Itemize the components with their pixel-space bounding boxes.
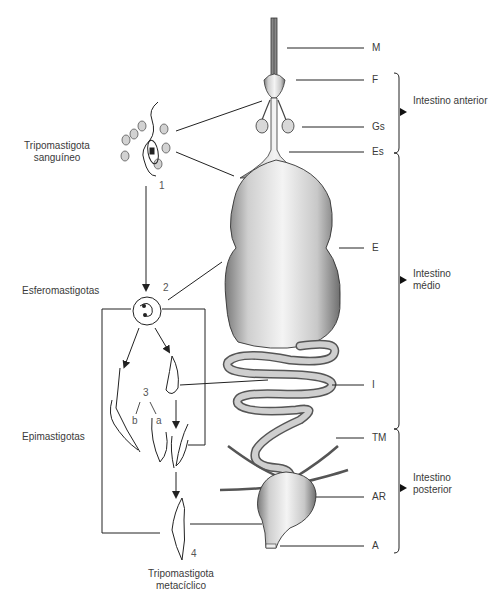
stage-3-sub-b: b	[132, 415, 138, 426]
region-anterior-label: Intestino anterior	[413, 95, 488, 107]
stage-1-label: Tripomastigota sanguíneo	[22, 140, 92, 164]
stage-4-number: 4	[191, 548, 197, 559]
cycle-box-lines	[102, 309, 205, 533]
rectal-ampulla	[258, 472, 317, 548]
stage-1-label-line2: sanguíneo	[22, 152, 92, 164]
region-posterior-label: Intestino posterior	[413, 472, 452, 496]
anatomy-label-tm: TM	[372, 432, 386, 444]
pharynx	[264, 74, 285, 98]
region-braces	[394, 73, 399, 553]
anatomy-label-m: M	[372, 42, 380, 54]
mouthpart-stylet	[271, 18, 277, 76]
sphero-cell	[133, 297, 161, 325]
stage-3-sub-a: a	[156, 415, 162, 426]
region-middle-line1: Intestino	[413, 268, 451, 280]
anatomy-label-f: F	[372, 74, 378, 86]
cycle-arrows	[125, 186, 176, 495]
anatomy-label-a: A	[372, 540, 379, 552]
stage-4-label-line1: Tripomastigota	[136, 568, 226, 580]
region-posterior-line2: posterior	[413, 484, 452, 496]
anatomy-label-gs: Gs	[372, 121, 385, 133]
region-posterior-line1: Intestino	[413, 472, 452, 484]
epimastigote-sub-lines	[136, 402, 156, 414]
stage-3-label: Epimastigotas	[22, 431, 85, 443]
anatomy-label-e: E	[372, 242, 379, 254]
stage-4-label-line2: metacíclico	[136, 580, 226, 592]
stage-3-number: 3	[143, 387, 149, 398]
region-middle-label: Intestino médio	[413, 268, 451, 292]
insect-digestive-tract-diagram: Tripomastigota sanguíneo 1 Esferomastigo…	[0, 0, 499, 602]
stomach	[225, 160, 340, 348]
stage-2-label: Esferomastigotas	[22, 285, 99, 297]
region-middle-line2: médio	[413, 280, 451, 292]
epimastigote-cells	[110, 356, 188, 560]
diagram-drawing	[0, 0, 499, 602]
stage-4-label: Tripomastigota metacíclico	[136, 568, 226, 592]
stage-2-number: 2	[163, 282, 169, 293]
anatomy-label-ar: AR	[372, 491, 386, 503]
stage-1-label-line1: Tripomastigota	[22, 140, 92, 152]
region-pointer-arrows	[400, 108, 407, 492]
anatomy-label-es: Es	[372, 146, 384, 158]
anatomy-label-i: I	[372, 379, 375, 391]
stage-1-number: 1	[159, 180, 165, 191]
